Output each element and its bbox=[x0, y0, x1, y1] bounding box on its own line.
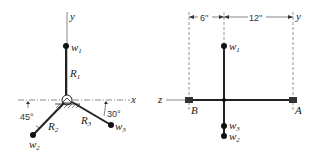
mass-w2-dot bbox=[221, 133, 227, 139]
arrow-head-icon bbox=[219, 15, 224, 19]
arrow-head-icon bbox=[189, 15, 194, 19]
bearing-b-label: B bbox=[191, 104, 198, 116]
rotor-balance-diagram: y x w1 R1 w2 R2 45° bbox=[0, 0, 316, 157]
x-axis-label: x bbox=[130, 93, 136, 105]
right-figure-side-view: 6'' 12'' y z B A w1 w3 w2 bbox=[157, 10, 302, 144]
bearing-a-label: A bbox=[294, 104, 302, 116]
bearing-b bbox=[185, 97, 193, 103]
mass-w1-label: w1 bbox=[71, 41, 82, 55]
arm-r2-label: R2 bbox=[47, 120, 59, 134]
arrow-head-icon bbox=[288, 15, 293, 19]
arm-r1-label: R1 bbox=[69, 67, 80, 81]
y-axis-label: y bbox=[295, 10, 301, 22]
z-axis-label: z bbox=[157, 93, 163, 105]
y-axis-label: y bbox=[69, 10, 75, 22]
mass-w1-dot bbox=[221, 43, 227, 49]
mass-w1-dot bbox=[63, 43, 69, 49]
mass-w3-label: w3 bbox=[115, 120, 126, 134]
mass-w3-dot bbox=[221, 123, 227, 129]
arrow-head-icon bbox=[224, 15, 229, 19]
arm-r3-label: R3 bbox=[80, 114, 92, 128]
arrow-head-icon bbox=[26, 101, 30, 104]
dimension-6-label: 6'' bbox=[200, 13, 209, 23]
angle-30-arrow bbox=[104, 102, 106, 116]
bearing-a bbox=[289, 97, 297, 103]
arm-r3 bbox=[72, 102, 111, 125]
mass-w1-label: w1 bbox=[229, 40, 240, 54]
left-figure-front-view: y x w1 R1 w2 R2 45° bbox=[18, 10, 136, 152]
angle-45-label: 45° bbox=[20, 112, 34, 122]
hub bbox=[222, 98, 226, 102]
arrow-head-icon bbox=[104, 101, 108, 104]
mass-w2-label: w2 bbox=[29, 138, 40, 152]
dimension-12-label: 12'' bbox=[249, 13, 263, 23]
mass-w3-dot bbox=[108, 122, 114, 128]
angle-30-label: 30° bbox=[107, 109, 121, 119]
